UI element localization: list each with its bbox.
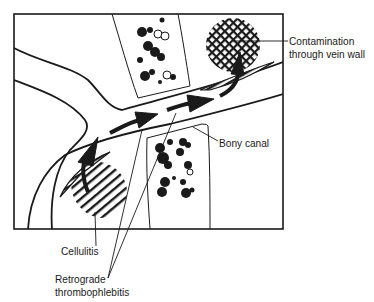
label-thrombophlebitis-line2: thrombophlebitis [55,286,129,299]
label-thrombophlebitis: Retrograde thrombophlebitis [55,273,129,299]
label-contamination-line2: through vein wall [289,48,365,61]
label-contamination: Contamination through vein wall [289,35,365,61]
label-bony-canal: Bony canal [219,137,269,150]
label-contamination-line1: Contamination [289,35,365,48]
label-cellulitis: Cellulitis [61,245,99,258]
contamination-zone [206,18,260,72]
label-thrombophlebitis-line1: Retrograde [55,273,129,286]
